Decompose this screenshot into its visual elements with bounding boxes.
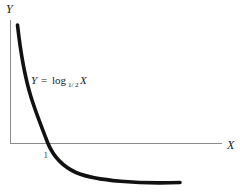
x-axis-label: X [226, 138, 235, 152]
x-tick-label-1: 1 [44, 150, 49, 160]
log-function-figure: Y X 1 Y = log 1 / 2 X [0, 0, 240, 196]
equation-subscript-divider: / [72, 81, 74, 89]
figure-background [0, 0, 240, 196]
equation-function: log [52, 74, 67, 86]
equation-argument: X [79, 74, 88, 86]
equation-operator: = [41, 74, 47, 86]
figure-canvas: Y X 1 Y = log 1 / 2 X [0, 0, 240, 196]
equation-subscript-denominator: 2 [75, 81, 79, 89]
